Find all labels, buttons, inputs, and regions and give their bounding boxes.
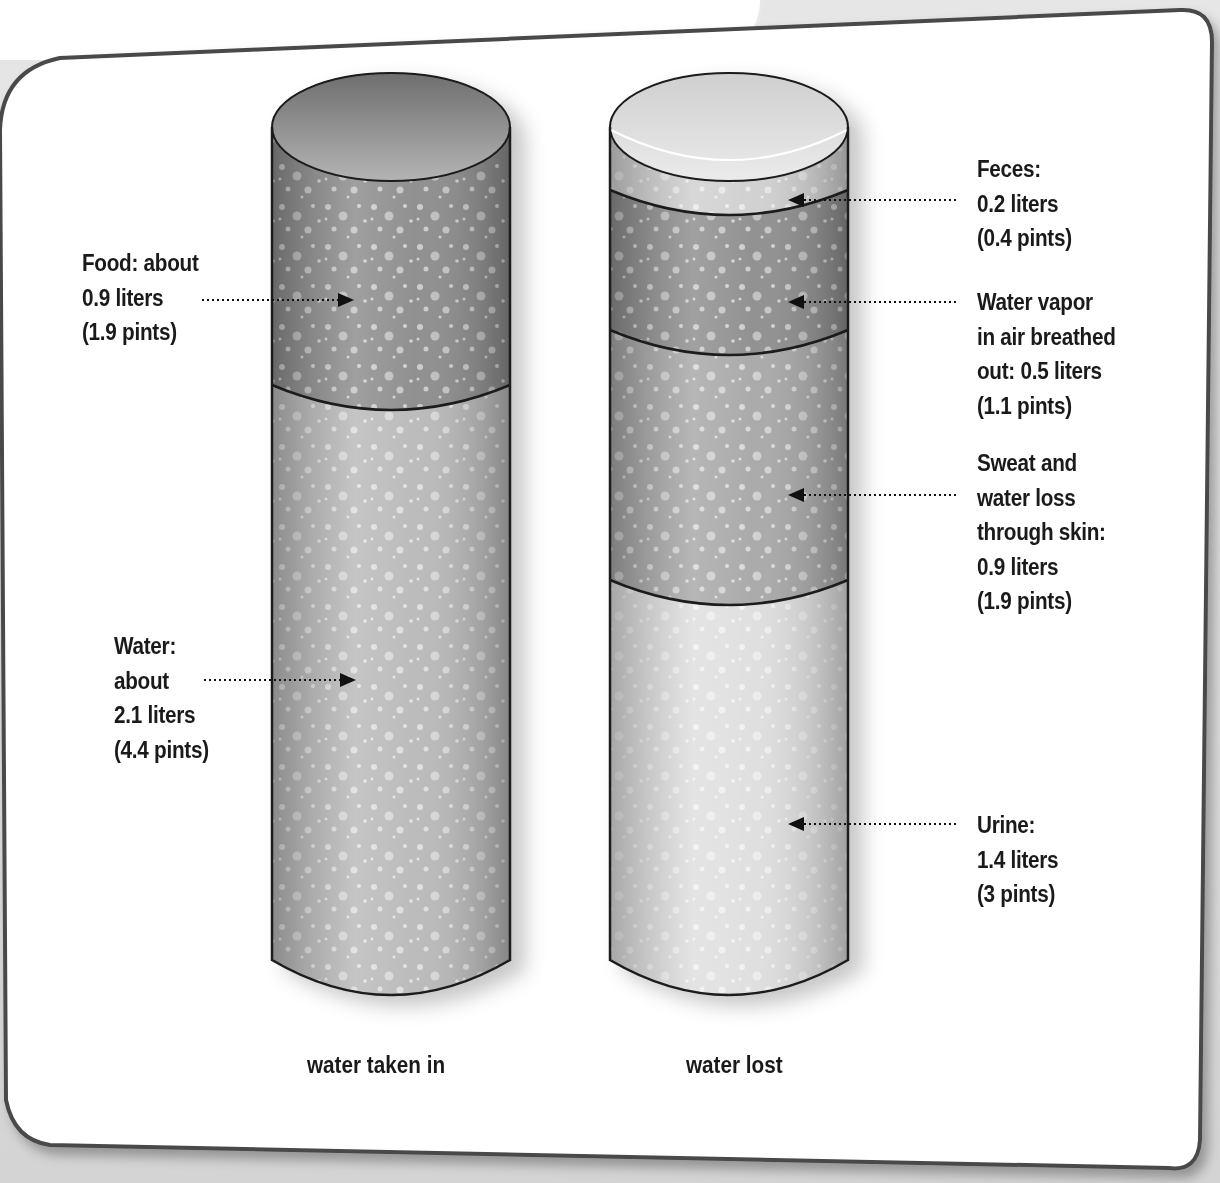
label-sweat-line-2: water loss	[977, 481, 1106, 516]
label-food-line-3: (1.9 pints)	[82, 315, 199, 350]
label-water-vapor-line-3: out: 0.5 liters	[977, 354, 1116, 389]
label-urine-line-3: (3 pints)	[977, 877, 1058, 912]
cylinder-water-lost	[610, 73, 848, 995]
label-sweat-line-1: Sweat and	[977, 446, 1106, 481]
caption-water-taken-in: water taken in	[307, 1052, 445, 1079]
label-sweat-line-3: through skin:	[977, 515, 1106, 550]
label-water-vapor-line-1: Water vapor	[977, 285, 1116, 320]
cylinder-water-taken-in	[272, 73, 510, 995]
label-water-line-4: (4.4 pints)	[114, 733, 209, 768]
label-food-line-2: 0.9 liters	[82, 281, 199, 316]
label-sweat-line-4: 0.9 liters	[977, 550, 1106, 585]
label-sweat-line-5: (1.9 pints)	[977, 584, 1106, 619]
label-water-vapor-line-4: (1.1 pints)	[977, 389, 1116, 424]
label-food: Food: about 0.9 liters (1.9 pints)	[82, 246, 199, 350]
label-urine: Urine: 1.4 liters (3 pints)	[977, 808, 1058, 912]
label-water-vapor-line-2: in air breathed	[977, 320, 1116, 355]
label-water-line-1: Water:	[114, 629, 209, 664]
label-water-vapor: Water vapor in air breathed out: 0.5 lit…	[977, 285, 1116, 423]
label-feces-line-3: (0.4 pints)	[977, 221, 1072, 256]
label-feces: Feces: 0.2 liters (0.4 pints)	[977, 152, 1072, 256]
caption-water-lost: water lost	[686, 1052, 783, 1079]
diagram-card: Food: about 0.9 liters (1.9 pints) Water…	[0, 0, 1220, 1183]
label-water: Water: about 2.1 liters (4.4 pints)	[114, 629, 209, 767]
label-water-line-2: about	[114, 664, 209, 699]
label-feces-line-2: 0.2 liters	[977, 187, 1072, 222]
label-urine-line-1: Urine:	[977, 808, 1058, 843]
label-sweat: Sweat and water loss through skin: 0.9 l…	[977, 446, 1106, 619]
label-feces-line-1: Feces:	[977, 152, 1072, 187]
label-water-line-3: 2.1 liters	[114, 698, 209, 733]
label-urine-line-2: 1.4 liters	[977, 843, 1058, 878]
label-food-line-1: Food: about	[82, 246, 199, 281]
